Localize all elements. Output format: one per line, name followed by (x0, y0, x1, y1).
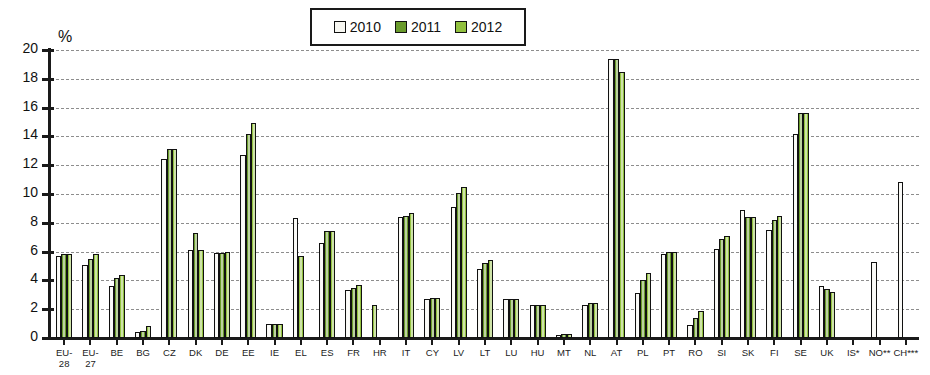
gridline (51, 252, 919, 254)
bar-highlight (221, 254, 223, 337)
bar-LT-2012 (488, 260, 493, 338)
x-axis-tick (694, 337, 696, 345)
bar-highlight (347, 291, 349, 337)
bar-highlight (610, 60, 612, 337)
bar-highlight (95, 255, 97, 337)
x-axis-tick (773, 337, 775, 345)
x-axis-tick (458, 337, 460, 345)
bar-highlight (490, 261, 492, 337)
bar-highlight (505, 300, 507, 337)
bar-highlight (721, 240, 723, 337)
bar-highlight (268, 325, 270, 337)
bar-LU-2012 (514, 299, 519, 338)
bar-highlight (295, 219, 297, 337)
x-axis-tick (800, 337, 802, 345)
y-axis (48, 48, 51, 340)
legend-label: 2012 (471, 19, 502, 35)
bar-highlight (69, 255, 71, 337)
bar-SE-2012 (803, 113, 808, 338)
legend-item-2011[interactable]: 2011 (395, 19, 441, 35)
bar-highlight (742, 211, 744, 337)
y-axis-unit-label: % (58, 28, 72, 46)
bar-highlight (326, 232, 328, 337)
bar-highlight (590, 304, 592, 337)
bar-highlight (774, 221, 776, 337)
bar-highlight (200, 251, 202, 337)
x-axis-tick (221, 337, 223, 345)
bar-HU-2012 (540, 305, 545, 338)
bar-BE-2012 (119, 275, 124, 338)
bar-highlight (832, 293, 834, 337)
chart-legend: 201020112012 (310, 8, 526, 46)
bar-highlight (511, 300, 513, 337)
bar-highlight (353, 289, 355, 337)
bar-highlight (616, 60, 618, 337)
bar-NL-2012 (593, 303, 598, 338)
x-axis-tick (379, 337, 381, 345)
bar-SK-2012 (751, 217, 756, 338)
bar-highlight (174, 150, 176, 337)
bar-highlight (405, 217, 407, 337)
x-axis-tick (563, 337, 565, 345)
bar-ES-2012 (330, 231, 335, 338)
bar-highlight (726, 237, 728, 337)
x-axis-tick (905, 337, 907, 345)
bar-highlight (479, 270, 481, 337)
bar-highlight (190, 251, 192, 337)
y-axis-tick-label: 6 (6, 245, 38, 255)
bar-highlight (111, 287, 113, 337)
x-axis-tick (721, 337, 723, 345)
bar-highlight (532, 306, 534, 337)
bar-highlight (411, 214, 413, 337)
bar-highlight (800, 114, 802, 337)
y-axis-tick-label: 20 (6, 43, 38, 53)
bar-IE-2012 (277, 324, 282, 338)
bar-highlight (753, 218, 755, 337)
x-axis-tick (352, 337, 354, 345)
bar-highlight (195, 234, 197, 337)
bar-highlight (432, 299, 434, 337)
bar-highlight (648, 274, 650, 337)
gridline (51, 108, 919, 110)
bar-highlight (400, 218, 402, 337)
x-axis-tick (484, 337, 486, 345)
bar-highlight (558, 336, 560, 337)
x-axis-tick (168, 337, 170, 345)
bar-highlight (274, 325, 276, 337)
bar-highlight (637, 294, 639, 337)
bar-highlight (137, 333, 139, 337)
bar-highlight (716, 250, 718, 337)
bar-highlight (253, 124, 255, 337)
bar-highlight (873, 263, 875, 337)
bar-highlight (163, 160, 165, 337)
y-axis-tick-label: 18 (6, 72, 38, 82)
y-axis-tick-label: 0 (6, 331, 38, 341)
bar-RO-2012 (698, 311, 703, 338)
x-axis-tick (537, 337, 539, 345)
x-axis-tick (826, 337, 828, 345)
legend-swatch-icon (395, 21, 407, 33)
bar-FI-2012 (777, 216, 782, 338)
bar-highlight (542, 306, 544, 337)
bar-highlight (700, 312, 702, 337)
bar-highlight (121, 276, 123, 337)
x-axis-tick (510, 337, 512, 345)
bar-highlight (463, 188, 465, 337)
bar-highlight (663, 255, 665, 337)
bar-highlight (358, 286, 360, 337)
y-axis-tick-label: 10 (6, 187, 38, 197)
x-axis-tick (747, 337, 749, 345)
legend-label: 2010 (350, 19, 381, 35)
x-axis-tick (326, 337, 328, 345)
x-axis-tick (300, 337, 302, 345)
legend-item-2010[interactable]: 2010 (334, 19, 381, 35)
bar-highlight (674, 253, 676, 337)
bar-highlight (321, 244, 323, 337)
bar-NO-2010 (871, 262, 876, 338)
bar-highlight (58, 257, 60, 337)
legend-item-2012[interactable]: 2012 (455, 19, 502, 35)
bar-highlight (768, 231, 770, 337)
bar-highlight (821, 287, 823, 337)
bar-highlight (437, 299, 439, 337)
bar-highlight (595, 304, 597, 337)
